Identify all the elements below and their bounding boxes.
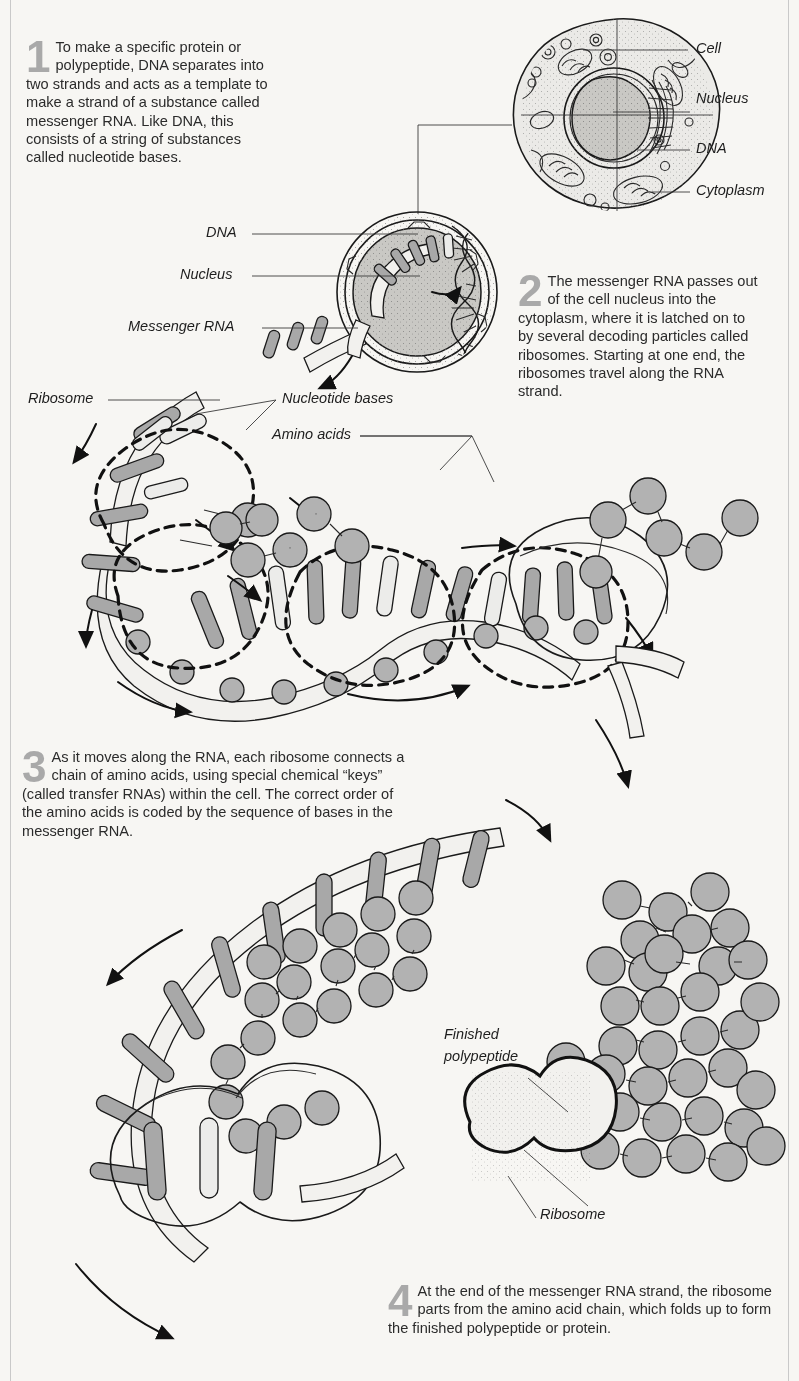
growing-amino-chain [580,478,758,588]
free-amino-acids [180,497,369,577]
label-ribosome-top: Ribosome [28,390,93,406]
label-amino-acids: Amino acids [272,426,351,442]
bottom-translation-scene [76,800,550,1338]
label-dna-closeup: DNA [206,224,237,240]
label-cytoplasm: Cytoplasm [696,182,765,198]
nucleus-closeup [262,212,497,388]
label-messenger-rna: Messenger RNA [128,318,234,334]
label-finished-polypeptide-line2: polypeptide [444,1048,518,1064]
label-nucleus-closeup: Nucleus [180,266,232,282]
label-finished-polypeptide-line1: Finished [444,1026,499,1042]
messenger-rna-strand-exit [262,315,370,388]
backbone-spheres [126,616,598,704]
figure-page: 1 To make a specific protein or polypept… [0,0,799,1381]
label-nucleotide-bases: Nucleotide bases [282,390,393,406]
label-cell: Cell [696,40,721,56]
translation-strand [74,392,758,786]
diagram-artwork [0,0,799,1381]
detached-ribosome [465,1057,617,1206]
cell-diagram [418,12,722,218]
cell-interior [509,12,722,218]
label-dna-cell: DNA [696,140,727,156]
label-nucleus-cell: Nucleus [696,90,748,106]
label-ribosome-bottom: Ribosome [540,1206,605,1222]
